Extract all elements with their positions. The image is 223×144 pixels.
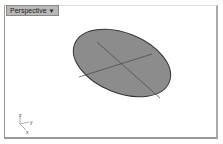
- viewport-canvas[interactable]: [0, 0, 223, 144]
- ellipse-object[interactable]: [63, 16, 180, 110]
- axis-x-label: x: [26, 129, 29, 135]
- axis-z-label: z: [19, 112, 22, 118]
- axis-y-label: y: [30, 119, 33, 125]
- axis-indicator: [20, 116, 29, 130]
